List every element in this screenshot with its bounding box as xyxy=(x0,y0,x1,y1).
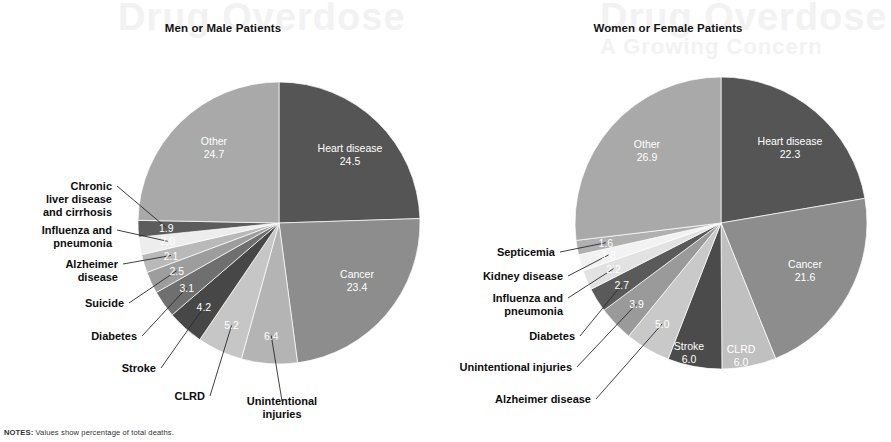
svg-text:Stroke: Stroke xyxy=(122,362,156,374)
slice-value-unintentional-injuries: 6.4 xyxy=(264,330,279,342)
slice-value-unintentional-injuries: 3.9 xyxy=(629,298,644,310)
outside-label-alzheimer-disease: Alzheimer disease xyxy=(495,393,591,405)
outside-label-diabetes: Diabetes xyxy=(529,330,575,342)
outside-label-diabetes: Diabetes xyxy=(91,330,137,342)
outside-label-kidney-disease: Kidney disease xyxy=(483,270,563,282)
slice-value-alzheimer-disease: 5.0 xyxy=(655,318,670,330)
slice-value-influenza-and-pneumonia: 2.2 xyxy=(606,263,621,275)
slice-value-diabetes: 3.1 xyxy=(179,282,194,294)
slice-value-septicemia: 1.6 xyxy=(599,237,614,249)
figure-notes-prefix: NOTES: xyxy=(4,428,33,437)
outside-label-septicemia: Septicemia xyxy=(497,246,556,258)
svg-text:Alzheimer disease: Alzheimer disease xyxy=(495,393,591,405)
outside-label-suicide: Suicide xyxy=(85,297,124,309)
svg-text:Alzheimerdisease: Alzheimerdisease xyxy=(65,258,118,283)
slice-label-other: Other26.9 xyxy=(634,138,661,163)
svg-text:Chronicliver diseaseand cirrho: Chronicliver diseaseand cirrhosis xyxy=(43,180,112,218)
svg-text:Suicide: Suicide xyxy=(85,297,124,309)
svg-text:CLRD: CLRD xyxy=(174,390,205,402)
slice-value-suicide: 2.5 xyxy=(169,265,184,277)
pie-slices xyxy=(138,82,420,364)
slice-value-alzheimer-disease: 2.1 xyxy=(164,250,179,262)
pie-slices xyxy=(575,77,867,369)
outside-label-stroke: Stroke xyxy=(122,362,156,374)
figure-root: Drug Overdose Drug Overdose A Growing Co… xyxy=(0,0,891,442)
outside-label-influenza-and-pneumonia: Influenza andpneumonia xyxy=(42,224,113,249)
pie-chart-male[interactable]: Heart disease24.5Cancer23.4Other24.7Chro… xyxy=(0,0,446,420)
svg-text:Kidney disease: Kidney disease xyxy=(483,270,563,282)
outside-label-chronic-liver-disease-and-cirrhosis: Chronicliver diseaseand cirrhosis xyxy=(43,180,112,218)
slice-value-diabetes: 2.7 xyxy=(614,279,629,291)
figure-notes: NOTES: Values show percentage of total d… xyxy=(4,428,174,437)
outside-label-alzheimer-disease: Alzheimerdisease xyxy=(65,258,118,283)
slice-value-chronic-liver-disease-and-cirrhosis: 1.9 xyxy=(159,222,174,234)
outside-label-influenza-and-pneumonia: Influenza andpneumonia xyxy=(493,292,564,317)
slice-value-kidney-disease: 1.8 xyxy=(601,249,616,261)
svg-text:Unintentional injuries: Unintentional injuries xyxy=(460,361,572,373)
svg-text:Influenza andpneumonia: Influenza andpneumonia xyxy=(493,292,564,317)
figure-notes-text: Values show percentage of total deaths. xyxy=(36,428,174,437)
svg-text:Septicemia: Septicemia xyxy=(497,246,556,258)
panel-women-or-female-patients: Women or Female Patients Heart disease22… xyxy=(445,0,891,420)
slice-value-influenza-and-pneumonia: 2.0 xyxy=(160,235,175,247)
panel-men-or-male-patients: Men or Male Patients Heart disease24.5Ca… xyxy=(0,0,446,420)
svg-text:Diabetes: Diabetes xyxy=(91,330,137,342)
slice-label-other: Other24.7 xyxy=(201,135,228,160)
outside-label-unintentional-injuries: Unintentional injuries xyxy=(460,361,572,373)
slice-value-stroke: 4.2 xyxy=(197,301,212,313)
svg-text:Diabetes: Diabetes xyxy=(529,330,575,342)
pie-chart-female[interactable]: Heart disease22.3Cancer21.6Other26.9Stro… xyxy=(445,0,891,420)
svg-text:Influenza andpneumonia: Influenza andpneumonia xyxy=(42,224,113,249)
outside-label-clrd: CLRD xyxy=(174,390,205,402)
slice-value-clrd: 5.2 xyxy=(224,319,239,331)
